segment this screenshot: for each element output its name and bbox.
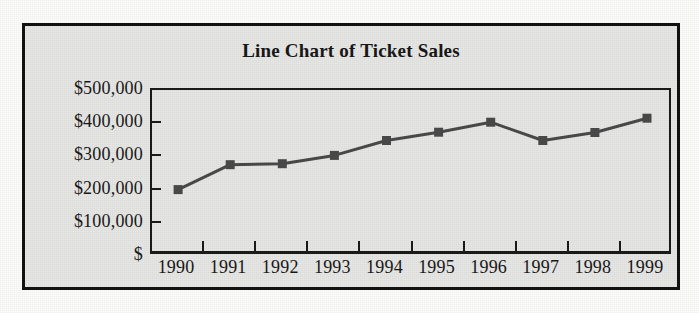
x-axis-tick-label: 1998 (574, 257, 611, 278)
data-point-marker: 1994: 348000 (382, 136, 391, 145)
data-point-marker: 1996: 403000 (486, 118, 495, 127)
x-axis-tick-mark (254, 241, 256, 254)
data-point-marker: 1990: 200000 (174, 185, 183, 194)
y-axis-tick-label: $300,000 (74, 144, 143, 165)
y-axis-tick-label: $100,000 (74, 210, 143, 231)
x-axis-tick-label: 1999 (627, 257, 664, 278)
x-axis-tick-mark (202, 241, 204, 254)
y-axis-tick-label: $400,000 (74, 111, 143, 132)
x-axis-tick-mark (515, 241, 517, 254)
y-axis-tick-mark (150, 121, 161, 123)
x-axis-tick-mark (463, 241, 465, 254)
data-point-marker: 1993: 303000 (330, 151, 339, 160)
data-point-marker: 1992: 278000 (278, 159, 287, 168)
data-point-marker: 1999: 415000 (643, 114, 652, 123)
chart-page: Line Chart of Ticket Sales $$100,000$200… (0, 0, 699, 313)
data-point-marker: 1991: 275000 (226, 160, 235, 169)
chart-frame: Line Chart of Ticket Sales $$100,000$200… (22, 23, 680, 290)
y-axis-tick-mark (150, 154, 161, 156)
x-axis-tick-label: 1991 (210, 257, 247, 278)
y-axis-tick-label: $500,000 (74, 78, 143, 99)
x-axis-tick-label: 1993 (314, 257, 351, 278)
y-axis-labels: $$100,000$200,000$300,000$400,000$500,00… (25, 26, 143, 293)
x-axis-tick-mark (358, 241, 360, 254)
y-axis-tick-label: $200,000 (74, 177, 143, 198)
x-axis-tick-mark (619, 241, 621, 254)
x-axis-tick-mark (411, 241, 413, 254)
x-axis-tick-mark (306, 241, 308, 254)
y-axis-tick-label: $ (134, 244, 143, 265)
line-series-svg: 1990: 2000001991: 2750001992: 2780001993… (152, 90, 673, 256)
y-axis-tick-mark (150, 221, 161, 223)
x-axis-tick-label: 1994 (366, 257, 403, 278)
x-axis-tick-label: 1995 (418, 257, 455, 278)
data-point-marker: 1998: 372000 (590, 128, 599, 137)
x-axis-tick-mark (567, 241, 569, 254)
x-axis-tick-label: 1996 (470, 257, 507, 278)
plot-area: 1990: 2000001991: 2750001992: 2780001993… (150, 88, 671, 254)
x-axis-tick-label: 1990 (158, 257, 195, 278)
x-axis-tick-label: 1992 (262, 257, 299, 278)
data-point-marker: 1995: 373000 (434, 128, 443, 137)
x-axis-tick-label: 1997 (522, 257, 559, 278)
y-axis-tick-mark (150, 188, 161, 190)
series-line (178, 118, 647, 189)
data-point-marker: 1997: 348000 (538, 136, 547, 145)
